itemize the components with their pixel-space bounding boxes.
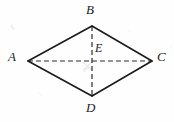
speck-artifact-right-edge — [170, 46, 172, 49]
vertex-label-B: B — [86, 3, 94, 16]
geometry-figure: A B C D E — [0, 0, 174, 122]
diagonals-group — [28, 26, 152, 96]
speck-artifact-bottom-left — [38, 92, 42, 96]
vertex-label-E: E — [95, 42, 102, 55]
speck-artifact-top-left — [10, 24, 15, 30]
edge-DA — [28, 61, 92, 96]
vertex-label-D: D — [86, 101, 95, 114]
vertex-label-C: C — [157, 50, 166, 63]
vertex-label-A: A — [8, 50, 16, 63]
edge-AB — [28, 26, 92, 61]
edge-CD — [92, 61, 152, 96]
speck-artifact-top-right — [128, 30, 131, 32]
scan-artifacts — [10, 24, 172, 96]
